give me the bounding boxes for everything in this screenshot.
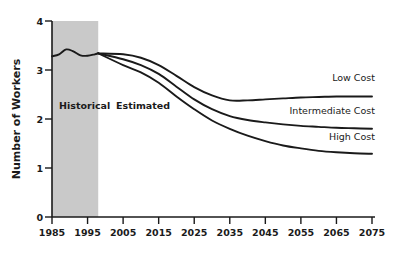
series-inline-labels: Low CostIntermediate CostHigh Cost xyxy=(290,72,376,142)
x-tick-label: 2055 xyxy=(288,227,314,238)
region-annotations: HistoricalEstimated xyxy=(59,100,170,111)
x-tick-label: 2065 xyxy=(323,227,349,238)
chart-container: 01234 1985199520052015202520352045205520… xyxy=(0,0,399,260)
chart-axes xyxy=(52,21,375,217)
historical-band-rect xyxy=(52,21,98,217)
series-line-intermediate-cost xyxy=(98,53,372,128)
x-tick-label: 2075 xyxy=(359,227,385,238)
y-axis-ticks: 01234 xyxy=(36,16,52,223)
x-tick-label: 2015 xyxy=(145,227,171,238)
y-tick-label: 2 xyxy=(36,114,43,125)
x-tick-label: 1985 xyxy=(39,227,65,238)
series-label-low-cost: Low Cost xyxy=(332,72,375,83)
x-axis-ticks: 1985199520052015202520352045205520652075 xyxy=(39,217,385,238)
x-tick-label: 1995 xyxy=(74,227,100,238)
y-tick-label: 4 xyxy=(36,16,43,27)
series-label-intermediate-cost: Intermediate Cost xyxy=(290,105,376,116)
x-tick-label: 2025 xyxy=(181,227,207,238)
series-line-low-cost xyxy=(98,53,372,100)
region-label-estimated: Estimated xyxy=(116,100,170,111)
historical-shaded-band xyxy=(52,21,98,217)
region-label-historical: Historical xyxy=(59,100,110,111)
x-tick-label: 2035 xyxy=(217,227,243,238)
workers-per-beneficiary-line-chart: 01234 1985199520052015202520352045205520… xyxy=(0,0,399,260)
y-axis-title: Number of Workers xyxy=(10,58,23,179)
y-tick-label: 0 xyxy=(36,212,43,223)
series-label-high-cost: High Cost xyxy=(329,131,375,142)
x-tick-label: 2045 xyxy=(252,227,278,238)
y-tick-label: 3 xyxy=(36,65,43,76)
y-tick-label: 1 xyxy=(36,163,43,174)
x-tick-label: 2005 xyxy=(110,227,136,238)
